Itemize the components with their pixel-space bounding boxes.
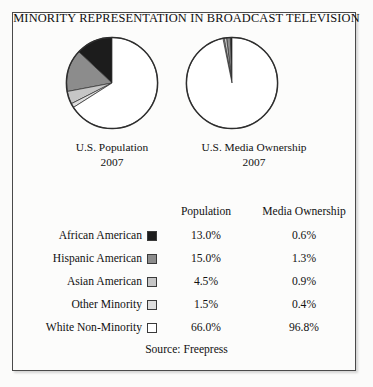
table-row-media-ownership-value: 96.8%	[245, 321, 363, 334]
table-row-swatch-cell	[147, 254, 167, 264]
table-row-media-ownership-value: 1.3%	[245, 252, 363, 265]
pie-media-caption: U.S. Media Ownership 2007	[170, 140, 338, 169]
table-row-label: Other Minority	[0, 298, 147, 311]
table-row-population-value: 1.5%	[167, 298, 245, 311]
table-row-label: Hispanic American	[0, 252, 147, 265]
pie-population-svg	[62, 33, 162, 133]
table-row-swatch-cell	[147, 300, 167, 310]
pie-population-caption-text: U.S. Population	[76, 141, 148, 153]
pie-media-svg	[182, 33, 282, 133]
legend-swatch-icon	[147, 231, 157, 241]
legend-table: Population Media Ownership African Ameri…	[0, 198, 373, 339]
table-header-media-ownership: Media Ownership	[245, 205, 363, 218]
table-row: Asian American4.5%0.9%	[0, 270, 373, 293]
table-row-population-value: 4.5%	[167, 275, 245, 288]
table-row-media-ownership-value: 0.4%	[245, 298, 363, 311]
source-note: Source: Freepress	[0, 343, 373, 356]
pie-population-caption: U.S. Population 2007	[38, 140, 186, 169]
table-header-population: Population	[167, 205, 245, 218]
pie-chart-population	[62, 33, 162, 133]
legend-swatch-icon	[147, 300, 157, 310]
figure-canvas: MINORITY REPRESENTATION IN BROADCAST TEL…	[0, 0, 373, 387]
pie-population-caption-year: 2007	[38, 155, 186, 170]
pie-chart-media	[182, 33, 282, 133]
chart-title: MINORITY REPRESENTATION IN BROADCAST TEL…	[0, 11, 373, 26]
legend-swatch-icon	[147, 254, 157, 264]
table-row-swatch-cell	[147, 231, 167, 241]
table-row-population-value: 13.0%	[167, 229, 245, 242]
table-row-media-ownership-value: 0.9%	[245, 275, 363, 288]
pie-media-caption-year: 2007	[170, 155, 338, 170]
table-row-swatch-cell	[147, 323, 167, 333]
table-row: African American13.0%0.6%	[0, 224, 373, 247]
table-row-population-value: 15.0%	[167, 252, 245, 265]
pie-media-caption-text: U.S. Media Ownership	[201, 141, 306, 153]
table-row: Other Minority1.5%0.4%	[0, 293, 373, 316]
table-row: Hispanic American15.0%1.3%	[0, 247, 373, 270]
pie-chart-group	[0, 33, 373, 135]
table-body: African American13.0%0.6%Hispanic Americ…	[0, 224, 373, 339]
table-row-population-value: 66.0%	[167, 321, 245, 334]
table-row: White Non-Minority66.0%96.8%	[0, 316, 373, 339]
table-row-swatch-cell	[147, 277, 167, 287]
table-row-label: Asian American	[0, 275, 147, 288]
legend-swatch-icon	[147, 323, 157, 333]
table-row-label: African American	[0, 229, 147, 242]
table-row-label: White Non-Minority	[0, 321, 147, 334]
table-header-row: Population Media Ownership	[0, 198, 373, 224]
table-row-media-ownership-value: 0.6%	[245, 229, 363, 242]
legend-swatch-icon	[147, 277, 157, 287]
